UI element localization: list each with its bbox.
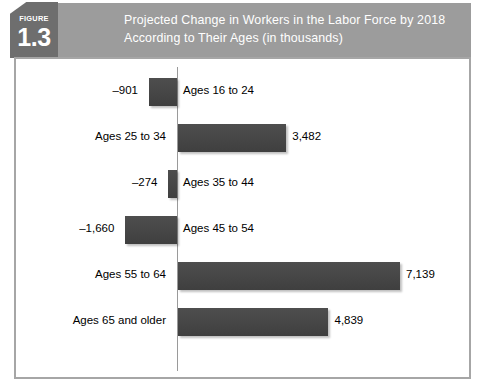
bar-row: 7,139Ages 55 to 64 — [16, 253, 469, 299]
bar-value-label: –274 — [132, 176, 158, 188]
bar-row: 4,839Ages 65 and older — [16, 299, 469, 345]
bar-value-label: –901 — [112, 84, 138, 96]
bar-ages-25-to-34 — [178, 124, 286, 152]
bar-row: 3,482Ages 25 to 34 — [16, 115, 469, 161]
bar-category-label: Ages 55 to 64 — [95, 268, 166, 280]
bar-category-label: Ages 35 to 44 — [183, 176, 254, 188]
bar-value-label: –1,660 — [79, 222, 114, 234]
bar-category-label: Ages 65 and older — [73, 314, 166, 326]
bar-ages-45-to-54 — [125, 216, 177, 244]
bar-category-label: Ages 16 to 24 — [183, 84, 254, 96]
figure-number-badge: FIGURE 1.3 — [10, 2, 58, 58]
figure-title: Projected Change in Workers in the Labor… — [124, 12, 474, 47]
bar-category-label: Ages 45 to 54 — [183, 222, 254, 234]
figure-container: Projected Change in Workers in the Labor… — [0, 0, 499, 392]
bar-ages-16-to-24 — [149, 78, 177, 106]
figure-badge-number: 1.3 — [10, 22, 58, 52]
bar-category-label: Ages 25 to 34 — [95, 130, 166, 142]
bar-value-label: 3,482 — [292, 130, 321, 142]
bar-value-label: 7,139 — [406, 268, 435, 280]
figure-header-band: Projected Change in Workers in the Labor… — [28, 3, 471, 59]
bar-ages-55-to-64 — [178, 262, 400, 290]
bar-row: –1,660Ages 45 to 54 — [16, 207, 469, 253]
bar-row: –274Ages 35 to 44 — [16, 161, 469, 207]
plot-area: –901Ages 16 to 243,482Ages 25 to 34–274A… — [16, 59, 469, 377]
chart-panel: –901Ages 16 to 243,482Ages 25 to 34–274A… — [14, 57, 471, 379]
bar-ages-35-to-44 — [168, 170, 177, 198]
bar-row: –901Ages 16 to 24 — [16, 69, 469, 115]
bar-ages-65-and-older — [178, 308, 328, 336]
bar-value-label: 4,839 — [334, 314, 363, 326]
